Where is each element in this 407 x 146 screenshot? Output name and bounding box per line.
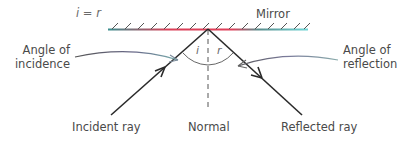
reflected-ray-label: Reflected ray: [281, 120, 357, 134]
mirror-label: Mirror: [256, 7, 290, 21]
angle-incidence-label: Angle of incidence: [0, 43, 70, 71]
normal-label: Normal: [188, 120, 230, 134]
angle-i-label: i: [196, 44, 199, 58]
angle-reflection-line1: Angle of: [343, 43, 397, 57]
incident-ray-label: Incident ray: [72, 120, 141, 134]
angle-reflection-line2: reflection: [343, 57, 397, 71]
angle-r-label: r: [217, 44, 222, 58]
incidence-pointer: [75, 52, 178, 62]
equation-label: i = r: [76, 6, 101, 20]
mirror-hatching: [112, 23, 310, 29]
angle-incidence-line1: Angle of: [0, 43, 70, 57]
angle-incidence-line2: incidence: [0, 57, 70, 71]
angle-reflection-label: Angle of reflection: [343, 43, 397, 71]
reflection-pointer: [238, 56, 338, 68]
mirror: [108, 23, 310, 30]
incident-ray: [111, 29, 208, 115]
reflected-ray: [208, 29, 302, 115]
